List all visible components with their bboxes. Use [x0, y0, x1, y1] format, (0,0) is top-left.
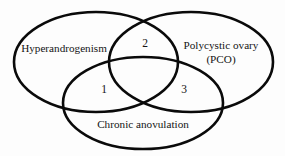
region-number-2: 2	[142, 37, 148, 49]
venn-diagram-canvas: Hyperandrogenism Polycystic ovary (PCO) …	[0, 0, 285, 156]
region-number-1: 1	[101, 83, 107, 95]
ellipse-polycystic-ovary	[109, 12, 273, 112]
set-label-polycystic-ovary-line1: Polycystic ovary	[184, 39, 259, 51]
set-label-hyperandrogenism: Hyperandrogenism	[21, 42, 107, 54]
set-label-chronic-anovulation: Chronic anovulation	[97, 118, 189, 130]
ellipse-hyperandrogenism	[14, 12, 178, 112]
venn-diagram-figure: Hyperandrogenism Polycystic ovary (PCO) …	[0, 0, 285, 156]
region-number-3: 3	[181, 83, 187, 95]
set-label-polycystic-ovary-line2: (PCO)	[206, 53, 235, 66]
